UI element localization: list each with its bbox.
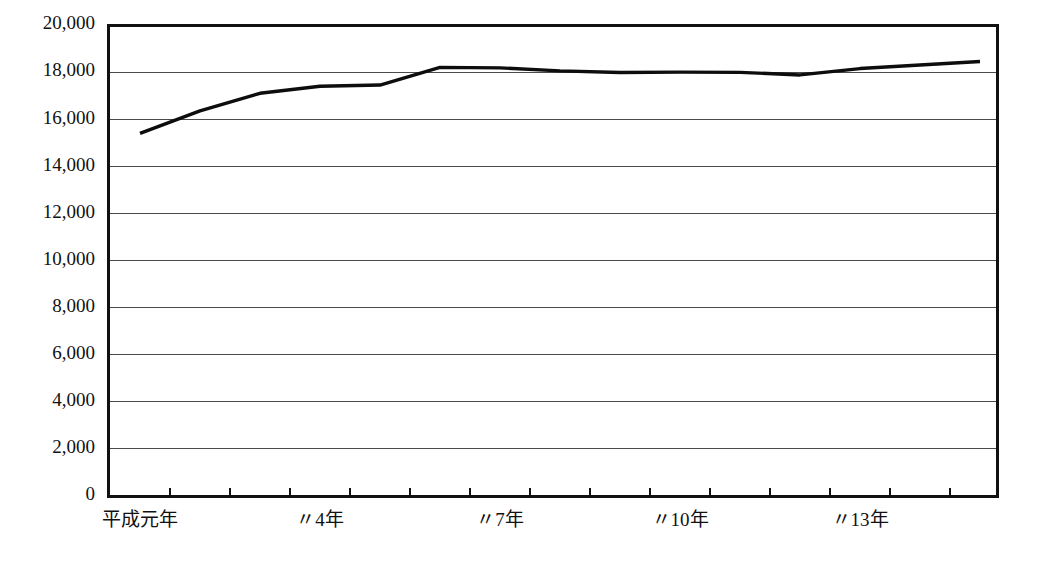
y-tick-label: 0 xyxy=(86,483,96,504)
chart-canvas: 02,0004,0006,0008,00010,00012,00014,0001… xyxy=(0,0,1039,579)
y-tick-label: 18,000 xyxy=(43,59,95,80)
x-tick-label: 〃4年 xyxy=(296,509,344,530)
y-tick-label: 8,000 xyxy=(52,295,95,316)
line-chart: 02,0004,0006,0008,00010,00012,00014,0001… xyxy=(0,0,1039,579)
x-tick-label: 〃7年 xyxy=(476,509,524,530)
x-tick-label: 〃13年 xyxy=(832,509,889,530)
y-tick-label: 4,000 xyxy=(52,389,95,410)
x-tick-label: 平成元年 xyxy=(102,509,178,530)
y-tick-label: 14,000 xyxy=(43,154,95,175)
y-tick-label: 10,000 xyxy=(43,248,95,269)
y-tick-label: 2,000 xyxy=(52,436,95,457)
y-tick-label: 16,000 xyxy=(43,107,95,128)
y-tick-label: 12,000 xyxy=(43,201,95,222)
x-tick-label: 〃10年 xyxy=(652,509,709,530)
y-tick-label: 6,000 xyxy=(52,342,95,363)
y-tick-label: 20,000 xyxy=(43,12,95,33)
chart-background xyxy=(0,0,1039,579)
